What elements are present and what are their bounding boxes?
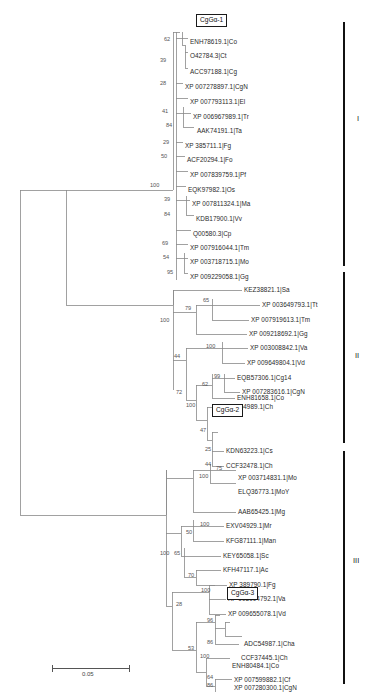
tip-label: CCF32478.1|Ch bbox=[226, 462, 273, 469]
tip-label: KFG87111.1|Man bbox=[226, 537, 276, 544]
tip-label: XP 003649793.1|Tt bbox=[262, 301, 318, 308]
bootstrap-value: 29 bbox=[163, 139, 169, 145]
tip-label: XP 007919613.1|Tm bbox=[251, 316, 310, 323]
bootstrap-value: 47 bbox=[200, 427, 206, 433]
bootstrap-value: 84 bbox=[166, 122, 172, 128]
tip-label: KEZ38821.1|Sa bbox=[244, 286, 290, 293]
tip-label: KFH47117.1|Ac bbox=[223, 566, 268, 573]
scale-bar-tick-right bbox=[129, 665, 130, 672]
tip-label: EQK97982.1|Os bbox=[188, 186, 235, 193]
clade-bar-III bbox=[343, 451, 345, 684]
tip-label: CCF37445.1|Ch bbox=[241, 654, 288, 661]
tip-label: XP 007811324.1|Ma bbox=[192, 200, 250, 207]
bootstrap-value: 86 bbox=[207, 639, 213, 645]
tip-label: XP 007839759.1|Pf bbox=[190, 171, 246, 178]
tip-label: O42784.3|Ct bbox=[190, 52, 227, 59]
tip-label: XP 007599882.1|Cf bbox=[234, 676, 290, 683]
bootstrap-value: 50 bbox=[161, 153, 167, 159]
bootstrap-value: 64 bbox=[207, 674, 213, 680]
phylogenetic-tree-canvas bbox=[0, 0, 374, 692]
scale-bar: 0.05 bbox=[52, 662, 142, 680]
bootstrap-value: 39 bbox=[164, 196, 170, 202]
tip-label: XP 009649804.1|Vd bbox=[247, 359, 305, 366]
bootstrap-value: 41 bbox=[162, 108, 168, 114]
scale-bar-value: 0.05 bbox=[82, 671, 94, 677]
tip-label: XP 007278897.1|CgN bbox=[185, 83, 248, 90]
bootstrap-value: 62 bbox=[202, 381, 208, 387]
clade-bar-II bbox=[343, 272, 345, 443]
bootstrap-value: 28 bbox=[176, 601, 182, 607]
tip-label: XP 003008842.1|Va bbox=[250, 344, 307, 351]
tip-label: ACC97188.1|Cg bbox=[190, 68, 237, 75]
tip-label: ACF20294.1|Fo bbox=[187, 156, 233, 163]
tip-label: XP 003714831.1|Mo bbox=[238, 474, 297, 481]
bootstrap-value: 95 bbox=[167, 269, 173, 275]
bootstrap-value: 100 bbox=[186, 402, 195, 408]
bootstrap-value: 72 bbox=[176, 389, 182, 395]
bootstrap-value: 86 bbox=[207, 682, 213, 688]
bootstrap-value: 100 bbox=[150, 182, 159, 188]
tip-label: Q00580.3|Cp bbox=[193, 230, 231, 237]
scale-bar-line bbox=[52, 668, 130, 669]
bootstrap-value: 65 bbox=[203, 297, 209, 303]
bootstrap-value: 53 bbox=[188, 645, 194, 651]
tip-label: EXV04929.1|Mr bbox=[226, 522, 272, 529]
bootstrap-value: 100 bbox=[199, 473, 208, 479]
bootstrap-value: 65 bbox=[174, 550, 180, 556]
tip-label: XP 007280300.1|CgN bbox=[234, 684, 297, 691]
tip-label: XP 007793113.1|El bbox=[190, 98, 245, 105]
highlighted-taxon-cggo-1[interactable]: CgGα-1 bbox=[196, 14, 227, 27]
tip-label: KDN63223.1|Cs bbox=[226, 447, 273, 454]
bootstrap-value: 96 bbox=[207, 617, 213, 623]
tip-label: XP 003718715.1|Mo bbox=[190, 258, 249, 265]
tip-label: AAB65425.1|Mg bbox=[238, 508, 285, 515]
bootstrap-value: 39 bbox=[160, 57, 166, 63]
bootstrap-value: 100 bbox=[160, 317, 169, 323]
tip-label: ADC54987.1|Cha bbox=[244, 640, 295, 647]
bootstrap-value: 100 bbox=[200, 653, 209, 659]
scale-bar-tick-left bbox=[52, 665, 53, 672]
tip-label: KEY65058.1|Sc bbox=[223, 552, 269, 559]
clade-label-I: I bbox=[357, 114, 359, 123]
bootstrap-value: 50 bbox=[186, 529, 192, 535]
bootstrap-value: 99 bbox=[214, 373, 220, 379]
bootstrap-value: 100 bbox=[206, 343, 215, 349]
highlighted-taxon-cggo-2[interactable]: CgGα-2 bbox=[212, 404, 243, 417]
clade-label-III: III bbox=[353, 556, 359, 565]
tip-label: XP 009229058.1|Gg bbox=[190, 273, 249, 280]
bootstrap-value: 84 bbox=[164, 211, 170, 217]
bootstrap-value: 28 bbox=[160, 80, 166, 86]
bootstrap-value: 54 bbox=[163, 254, 169, 260]
bootstrap-value: 70 bbox=[188, 572, 194, 578]
bootstrap-value: 62 bbox=[164, 36, 170, 42]
clade-label-II: II bbox=[355, 351, 359, 360]
clade-bar-I bbox=[343, 22, 345, 266]
tip-label: ENH80484.1|Co bbox=[232, 662, 279, 669]
tip-label: ELQ36773.1|MoY bbox=[238, 488, 289, 495]
tip-label: ENH78619.1|Co bbox=[190, 38, 237, 45]
bootstrap-value: 69 bbox=[162, 240, 168, 246]
bootstrap-value: 100 bbox=[201, 587, 210, 593]
tip-label: XP 385711.1|Fg bbox=[185, 142, 231, 149]
tip-label: AAK74191.1|Ta bbox=[197, 127, 242, 134]
highlighted-taxon-cggo-3[interactable]: CgGα-3 bbox=[227, 587, 258, 600]
bootstrap-value: 75 bbox=[216, 465, 222, 471]
tip-label: XP 007916044.1|Tm bbox=[190, 244, 249, 251]
bootstrap-value: 44 bbox=[205, 461, 211, 467]
tip-label: XP 009655078.1|Vd bbox=[228, 610, 286, 617]
bootstrap-value: 100 bbox=[200, 521, 209, 527]
tip-label: ENH81658.1|Co bbox=[237, 394, 284, 401]
bootstrap-value: 100 bbox=[160, 550, 169, 556]
bootstrap-value: 79 bbox=[185, 305, 191, 311]
tip-label: KDB17900.1|Vv bbox=[196, 215, 242, 222]
tip-label: EQB57306.1|Cg14 bbox=[237, 374, 291, 381]
tip-label: XP 009218692.1|Gg bbox=[249, 330, 308, 337]
bootstrap-value: 44 bbox=[174, 353, 180, 359]
tip-label: XP 006967989.1|Tr bbox=[193, 113, 249, 120]
bootstrap-value: 25 bbox=[205, 446, 211, 452]
